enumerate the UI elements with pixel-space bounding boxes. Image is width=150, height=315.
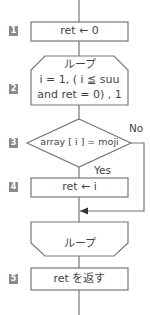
step-5-text: ret を返す (31, 273, 128, 286)
merge-arrow-icon (80, 208, 88, 215)
decision-yes-label: Yes (94, 164, 111, 176)
step-badge-1: 1 (9, 26, 18, 36)
decision-no-label: No (129, 122, 143, 134)
step-4-text: ret ← i (31, 181, 128, 194)
step-badge-5: 5 (9, 274, 18, 284)
step-1-text: ret ← 0 (31, 25, 128, 38)
loop-start-line-2: i = 1, ( i ≦ suu (31, 74, 128, 87)
decision-text: array [ i ] = moji (31, 137, 128, 148)
loop-start-line-3: and ret = 0) , 1 (31, 89, 128, 102)
step-badge-4: 4 (9, 182, 18, 192)
loop-end-text: ループ (31, 238, 128, 251)
flowchart-canvas (0, 0, 150, 315)
step-badge-3: 3 (9, 138, 18, 148)
connector-no (80, 143, 144, 211)
loop-start-line-1: ループ (31, 59, 128, 72)
step-badge-2: 2 (9, 84, 18, 94)
